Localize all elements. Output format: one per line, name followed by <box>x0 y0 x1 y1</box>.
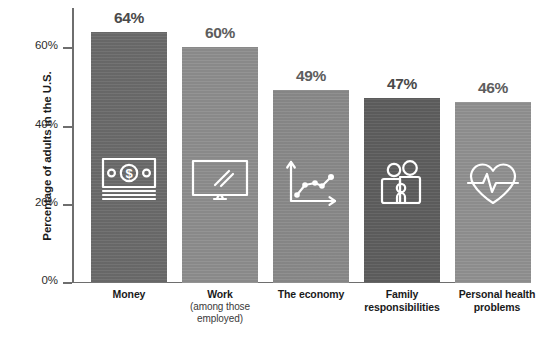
y-tick-label-0: 0% <box>41 274 58 286</box>
y-tick-label-60: 60% <box>35 39 58 51</box>
bar-value-health: 46% <box>455 79 531 97</box>
bar-group-money[interactable]: 64% $ <box>91 8 167 283</box>
category-label-economy-text: The economy <box>278 288 345 300</box>
category-label-health: Personal health problems <box>447 288 540 313</box>
category-label-money: Money <box>83 288 175 301</box>
y-axis-title: Percentage of adults in the U.S. <box>41 31 53 281</box>
category-label-work-sublabel: (among those employed) <box>174 301 266 325</box>
category-label-work-text: Work <box>207 288 233 300</box>
line-chart-icon <box>284 159 338 207</box>
category-label-family-text: Family responsibilities <box>364 288 439 313</box>
plot-area: 60% 40% 20% 0% 64% $ <box>72 8 527 283</box>
family-icon <box>376 161 428 209</box>
category-labels: Money Work (among those employed) The ec… <box>72 288 527 342</box>
money-icon: $ <box>101 157 157 201</box>
category-label-work: Work (among those employed) <box>174 288 266 325</box>
svg-text:$: $ <box>125 166 133 181</box>
bar-value-economy: 49% <box>273 67 349 85</box>
bar-group-family[interactable]: 47% <box>364 8 440 283</box>
category-label-economy: The economy <box>265 288 357 301</box>
y-tick-40: 40% <box>63 126 72 128</box>
monitor-icon <box>191 159 249 205</box>
category-label-money-text: Money <box>113 288 146 300</box>
bar-group-health[interactable]: 46% <box>455 8 531 283</box>
heart-pulse-icon <box>465 161 521 207</box>
y-tick-label-40: 40% <box>35 118 58 130</box>
bar-group-work[interactable]: 60% <box>182 8 258 283</box>
bars-layer: 64% $ 60% <box>72 8 527 283</box>
bar-value-money: 64% <box>91 9 167 27</box>
y-tick-label-20: 20% <box>35 196 58 208</box>
y-tick-20: 20% <box>63 204 72 206</box>
bar-value-work: 60% <box>182 24 258 42</box>
category-label-health-text: Personal health problems <box>459 288 536 313</box>
y-tick-60: 60% <box>63 47 72 49</box>
y-tick-0: 0% <box>63 282 72 284</box>
bar-group-economy[interactable]: 49% <box>273 8 349 283</box>
bar-value-family: 47% <box>364 75 440 93</box>
category-label-family: Family responsibilities <box>356 288 448 313</box>
